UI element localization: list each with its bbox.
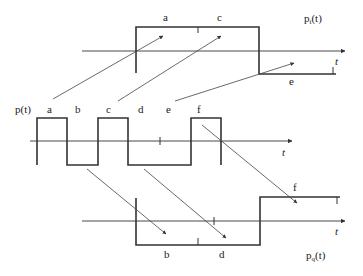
top-label-c: c [217,11,222,23]
top-label-e: e [289,75,294,87]
middle-label-c: c [106,103,111,115]
arrow-b-to-pq [87,169,166,234]
middle-label-f: f [197,103,201,115]
bottom-label-f: f [293,181,297,193]
top-signal-pi: a c e t pi(t) [82,11,345,87]
middle-signal-p: p(t) a b c d e f t [15,103,292,165]
top-label-a: a [163,11,168,23]
middle-label-d: d [138,103,144,115]
arrow-e-to-pi [175,63,294,101]
bottom-signal-title: pq(t) [306,249,326,263]
bottom-label-b: b [164,248,170,260]
arrow-f-to-pq [202,125,297,203]
top-waveform [136,27,336,74]
middle-label-b: b [75,103,81,115]
bottom-signal-pq: b d f t pq(t) [82,181,345,263]
bottom-axis-label-t: t [335,225,339,237]
middle-axis-label-t: t [282,146,286,158]
signal-diagram: a c e t pi(t) p(t) a b c d e f t b d f t… [0,0,363,276]
bottom-label-d: d [219,248,225,260]
arrow-d-to-pq [144,169,226,238]
middle-label-e: e [166,103,171,115]
middle-signal-title: p(t) [15,103,31,116]
top-axis-label-t: t [335,55,339,67]
middle-waveform [37,118,221,165]
middle-label-a: a [47,103,52,115]
top-signal-title: pi(t) [304,12,322,26]
arrow-a-to-pi [53,36,163,99]
